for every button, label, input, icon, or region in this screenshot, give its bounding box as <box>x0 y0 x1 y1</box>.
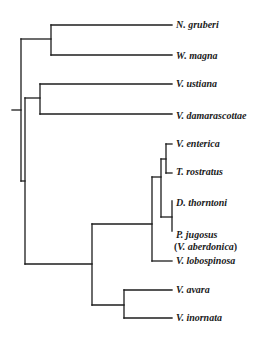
synonym-text: V. aberdonica <box>177 241 234 252</box>
taxon-label-p-jugosus: P. jugosus (V. aberdonica) <box>176 229 237 253</box>
taxon-label-d-thorntoni: D. thorntoni <box>176 197 227 209</box>
taxon-label-v-lobospinosa: V. lobospinosa <box>176 255 235 267</box>
taxon-label-t-rostratus: T. rostratus <box>176 166 223 178</box>
taxon-label-n-gruberi: N. gruberi <box>176 19 219 31</box>
taxon-label-v-inornata: V. inornata <box>176 312 222 324</box>
taxon-label-w-magna: W. magna <box>176 50 218 62</box>
taxon-label-v-avara: V. avara <box>176 284 210 296</box>
taxon-name-p-jugosus: P. jugosus <box>176 229 218 240</box>
taxon-synonym-v-aberdonica: (V. aberdonica) <box>174 241 237 253</box>
taxon-label-v-damarascottae: V. damarascottae <box>176 110 246 122</box>
taxon-label-v-ustiana: V. ustiana <box>176 78 217 90</box>
taxon-label-v-enterica: V. enterica <box>176 138 220 150</box>
paren-close: ) <box>234 241 237 252</box>
